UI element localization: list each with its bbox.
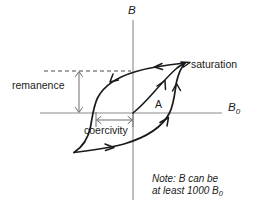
note-line-2-symbol: B bbox=[212, 185, 219, 196]
horizontal-axis-label-subscript: 0 bbox=[236, 107, 240, 116]
initial-curve-label: A bbox=[155, 98, 162, 110]
note-text: Note: B can be at least 1000 B0 bbox=[152, 173, 223, 196]
note-line-2: at least 1000 B0 bbox=[152, 185, 223, 197]
note-line-2-prefix: at least 1000 bbox=[152, 185, 212, 196]
arrow-upper-branch-downleft bbox=[110, 74, 119, 82]
remanence-label: remanence bbox=[12, 79, 65, 91]
saturation-pointer-icon bbox=[181, 62, 190, 67]
coercivity-label: coercivity bbox=[84, 124, 128, 136]
vertical-axis-label: B bbox=[128, 4, 136, 17]
horizontal-axis-label: B0 bbox=[228, 101, 240, 114]
saturation-label: saturation bbox=[191, 58, 237, 70]
note-line-1: Note: B can be bbox=[152, 173, 223, 185]
hysteresis-plot-svg bbox=[0, 0, 263, 211]
hysteresis-loop-figure: B B0 saturation remanence coercivity A N… bbox=[0, 0, 263, 211]
remanence-guides bbox=[44, 71, 131, 113]
note-line-2-subscript: 0 bbox=[219, 189, 223, 198]
horizontal-axis-label-main: B bbox=[228, 101, 236, 113]
